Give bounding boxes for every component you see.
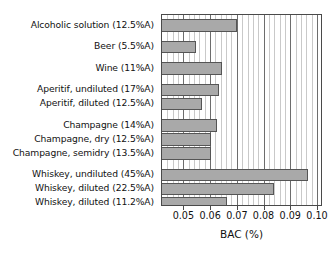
category-label: Whiskey, undiluted (45%A) — [32, 168, 154, 179]
bac-bar-chart: Alcoholic solution (12.5%A)Beer (5.5%A)W… — [0, 0, 336, 256]
bar — [162, 119, 217, 132]
category-label: Wine (11%A) — [95, 62, 154, 73]
category-label: Aperitif, diluted (12.5%A) — [40, 97, 154, 108]
category-label: Champagne, semidry (13.5%A) — [13, 147, 154, 158]
bar — [162, 41, 196, 54]
x-axis-tick-label: 0.07 — [226, 210, 247, 222]
x-axis-tick-labels: 0.050.060.070.080.090.10 — [161, 210, 322, 224]
bar — [162, 19, 237, 32]
x-axis-tick-label: 0.09 — [280, 210, 301, 222]
bar — [162, 197, 227, 207]
bar — [162, 133, 211, 146]
category-label: Alcoholic solution (12.5%A) — [31, 19, 154, 30]
bar — [162, 98, 202, 111]
category-label: Champagne, dry (12.5%A) — [34, 133, 154, 144]
x-axis-tick-label: 0.06 — [199, 210, 220, 222]
category-label: Champagne (14%A) — [63, 119, 154, 130]
category-label: Whiskey, diluted (22.5%A) — [35, 182, 154, 193]
bar — [162, 84, 219, 97]
x-axis-tick-label: 0.10 — [306, 210, 327, 222]
bar — [162, 62, 222, 75]
category-label: Whiskey, diluted (11.2%A) — [35, 196, 154, 207]
category-axis-labels: Alcoholic solution (12.5%A)Beer (5.5%A)W… — [0, 14, 158, 206]
x-axis-tick-label: 0.05 — [173, 210, 194, 222]
category-label: Beer (5.5%A) — [94, 40, 154, 51]
plot-area — [161, 14, 322, 206]
category-label: Aperitif, undiluted (17%A) — [37, 83, 154, 94]
bar — [162, 183, 274, 196]
x-axis-title: BAC (%) — [161, 228, 322, 240]
gridline-major — [317, 15, 318, 205]
x-axis-tick-label: 0.08 — [253, 210, 274, 222]
bar — [162, 169, 308, 182]
gridline-minor — [312, 15, 313, 205]
bar — [162, 147, 211, 160]
